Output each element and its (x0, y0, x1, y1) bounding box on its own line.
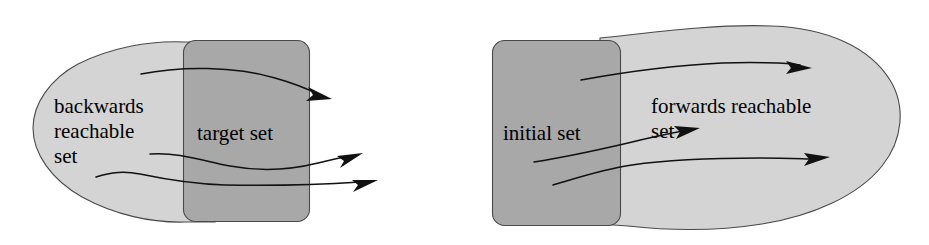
reachability-figure: backwards reachable set target set (0, 0, 929, 245)
backwards-reachable-set-label-line3: set (54, 144, 77, 168)
left-trajectory-2-arrowhead (337, 153, 363, 168)
backwards-reachable-set-label-line2: reachable (54, 119, 134, 143)
initial-set-label: initial set (503, 121, 581, 145)
left-panel: backwards reachable set target set (33, 41, 378, 223)
target-set-label: target set (197, 121, 273, 145)
backwards-reachable-set-label: backwards (54, 94, 144, 118)
right-panel: initial set forwards reachable set (493, 26, 901, 230)
figure-canvas: backwards reachable set target set (0, 0, 929, 245)
forwards-reachable-set-label-line2: set (651, 119, 674, 143)
forwards-reachable-set-region (600, 26, 900, 230)
left-trajectory-3-arrowhead (352, 180, 378, 192)
forwards-reachable-set-label: forwards reachable (651, 94, 811, 118)
